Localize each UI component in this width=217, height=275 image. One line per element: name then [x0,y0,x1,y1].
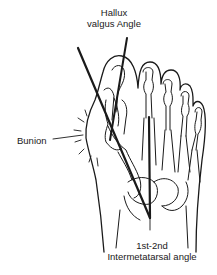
intermetatarsal-angle-label: 1st-2nd Intermetatarsal angle [100,240,204,262]
bunion-leader-line [53,135,83,139]
second-metatarsal-axis-line [149,117,150,218]
third-toe [162,80,175,173]
fourth-toe [178,92,190,173]
hallux-valgus-angle-label: Hallux valgus Angle [84,7,144,29]
hallux-valgus-angle-label-line2: valgus Angle [84,18,144,29]
intermetatarsal-angle-label-line2: Intermetatarsal angle [100,251,204,262]
tarsal-bones [116,178,188,249]
intermetatarsal-angle-label-line1: 1st-2nd [100,240,204,251]
hallux-valgus-angle-label-line1: Hallux [84,7,144,18]
foot-outline [86,56,205,252]
bunion-label: Bunion [17,135,47,146]
